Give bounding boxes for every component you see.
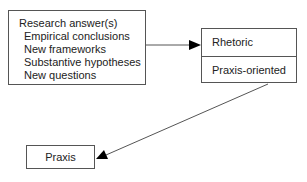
research-item: New questions [19, 69, 145, 82]
research-item: Substantive hypotheses [19, 56, 145, 69]
edge-praxis-oriented-to-praxis [106, 84, 268, 155]
research-item: New frameworks [19, 43, 145, 56]
praxis-label: Praxis [45, 151, 76, 163]
rhetoric-box: Rhetoric Praxis-oriented [201, 28, 297, 83]
research-answers-title: Research answer(s) [19, 17, 145, 30]
research-item: Empirical conclusions [19, 30, 145, 43]
praxis-box: Praxis [26, 145, 95, 169]
research-answers-box: Research answer(s) Empirical conclusions… [8, 10, 146, 85]
rhetoric-cell: Rhetoric [202, 29, 296, 56]
praxis-oriented-cell: Praxis-oriented [202, 56, 296, 83]
arrowhead-icon [189, 40, 201, 50]
